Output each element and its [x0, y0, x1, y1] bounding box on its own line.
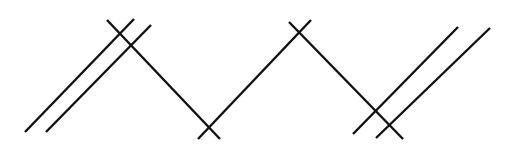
zigzag-seg-2-line	[198, 20, 311, 139]
zigzag-seg-1-line	[107, 20, 220, 139]
left-parallel-outer-line	[25, 19, 134, 132]
left-parallel-inner-line	[46, 25, 151, 132]
right-parallel-inner-line	[376, 28, 490, 138]
line-diagram	[0, 0, 515, 146]
right-parallel-outer-line	[353, 27, 458, 134]
zigzag-seg-3-line	[289, 22, 403, 139]
